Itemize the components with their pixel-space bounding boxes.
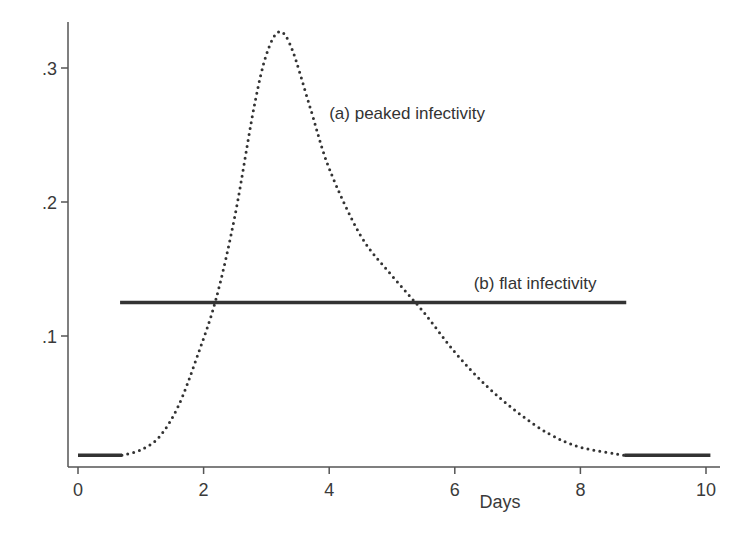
- y-axis-ticks: .1.2.3: [42, 59, 68, 347]
- x-tick-label: 6: [450, 480, 460, 500]
- x-axis-title: Days: [479, 492, 520, 512]
- x-tick-label: 0: [73, 480, 83, 500]
- x-axis-ticks: 0246810: [73, 467, 716, 500]
- y-tick-label: .2: [42, 193, 57, 213]
- line-chart: 0246810 .1.2.3 Days (a) peaked infectivi…: [0, 0, 753, 541]
- series-a-peaked-infectivity: [122, 32, 624, 456]
- y-tick-label: .3: [42, 59, 57, 79]
- x-tick-label: 10: [696, 480, 716, 500]
- x-tick-label: 2: [199, 480, 209, 500]
- x-tick-label: 4: [324, 480, 334, 500]
- annotation-flat-infectivity: (b) flat infectivity: [474, 274, 597, 293]
- annotation-peaked-infectivity: (a) peaked infectivity: [329, 104, 485, 123]
- plot-series: [78, 32, 710, 456]
- x-tick-label: 8: [575, 480, 585, 500]
- y-tick-label: .1: [42, 327, 57, 347]
